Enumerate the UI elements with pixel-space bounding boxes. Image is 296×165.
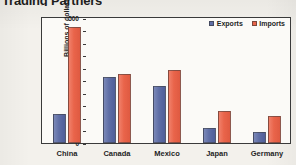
plot-frame: Billions of dollars 05010015020025030035… bbox=[41, 17, 291, 144]
bar-group bbox=[203, 18, 231, 143]
legend-item-imports[interactable]: Imports bbox=[252, 20, 285, 27]
legend-item-label: Imports bbox=[259, 20, 285, 27]
bar-group bbox=[253, 18, 281, 143]
x-axis-label-germany: Germany bbox=[237, 149, 296, 158]
bar-imports-canada[interactable] bbox=[118, 74, 131, 143]
plot-area bbox=[42, 18, 290, 143]
bar-imports-mexico[interactable] bbox=[168, 70, 181, 143]
page-title: Trading Partners bbox=[2, 0, 102, 6]
bar-group bbox=[103, 18, 131, 143]
legend-item-label: Exports bbox=[217, 20, 243, 27]
bar-exports-germany[interactable] bbox=[253, 132, 266, 143]
bar-group bbox=[53, 18, 81, 143]
bar-exports-japan[interactable] bbox=[203, 128, 216, 143]
bar-exports-mexico[interactable] bbox=[153, 86, 166, 144]
bar-imports-japan[interactable] bbox=[218, 111, 231, 143]
legend-item-exports[interactable]: Exports bbox=[209, 20, 243, 27]
bar-group bbox=[153, 18, 181, 143]
bar-exports-canada[interactable] bbox=[103, 77, 116, 143]
legend-swatch-icon bbox=[252, 21, 257, 26]
bar-imports-china[interactable] bbox=[68, 27, 81, 143]
chart-page: Trading Partners Billions of dollars 050… bbox=[0, 0, 296, 165]
bar-imports-germany[interactable] bbox=[268, 116, 281, 143]
legend-swatch-icon bbox=[209, 21, 214, 26]
bar-exports-china[interactable] bbox=[53, 114, 66, 143]
y-axis-tick-mark bbox=[83, 144, 86, 145]
chart-legend: ExportsImports bbox=[209, 20, 285, 27]
